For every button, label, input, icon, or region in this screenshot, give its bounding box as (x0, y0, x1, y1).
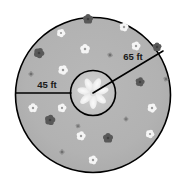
outer-radius-label: 65 ft (123, 51, 143, 62)
garden-flower (83, 14, 93, 24)
annulus-width-label: 45 ft (37, 79, 57, 90)
garden-flower (153, 42, 162, 51)
circular-garden-diagram: 65 ft 45 ft (0, 0, 186, 193)
garden-diagram-svg: 65 ft 45 ft (0, 0, 186, 193)
